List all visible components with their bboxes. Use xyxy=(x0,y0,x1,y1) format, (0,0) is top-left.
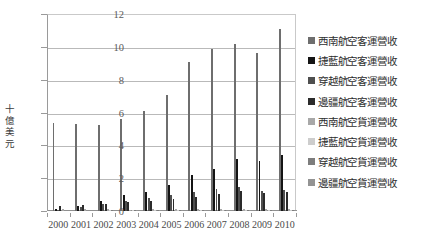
y-axis-tick-mark xyxy=(41,80,47,81)
bar-group xyxy=(279,15,297,211)
x-axis-tick-label: 2010 xyxy=(270,219,300,230)
x-axis: 2000200120022003200420052006200720082009… xyxy=(47,213,296,239)
x-axis-tick-mark xyxy=(160,213,161,217)
legend-label: 捷藍航空貨運營收 xyxy=(318,134,396,149)
legend-label: 邊疆航空客運營收 xyxy=(318,94,396,109)
legend-item[interactable]: 穿越航空貨運營收 xyxy=(308,152,424,172)
bar xyxy=(98,125,100,211)
bar xyxy=(84,209,86,211)
bar xyxy=(249,210,251,211)
bar xyxy=(62,209,64,211)
y-axis-title-char: 十 xyxy=(2,104,18,116)
y-axis-tick-mark xyxy=(41,113,47,114)
legend-swatch-icon xyxy=(308,57,315,64)
x-axis-tick-mark xyxy=(92,213,93,217)
bar-group xyxy=(188,15,206,211)
bar xyxy=(272,210,274,211)
x-axis-tick-mark xyxy=(273,213,274,217)
y-axis-tick-mark xyxy=(41,14,47,15)
bar-group xyxy=(75,15,93,211)
y-axis-title-char: 美 xyxy=(2,127,18,139)
legend-item[interactable]: 捷藍航空客運營收 xyxy=(308,50,424,70)
plot-inner xyxy=(48,15,295,211)
bar-group xyxy=(234,15,252,211)
chart-legend: 西南航空客運營收捷藍航空客運營收穿越航空客運營收邊疆航空客運營收西南航空貨運營收… xyxy=(308,30,424,192)
x-axis-tick-mark xyxy=(183,213,184,217)
legend-item[interactable]: 邊疆航空貨運營收 xyxy=(308,172,424,192)
bar xyxy=(182,210,184,211)
y-axis-tick-mark xyxy=(41,47,47,48)
x-axis-tick-mark xyxy=(138,213,139,217)
x-axis-tick-mark xyxy=(296,213,297,217)
legend-swatch-icon xyxy=(308,138,315,145)
legend-swatch-icon xyxy=(308,179,315,186)
bar xyxy=(53,123,55,211)
x-axis-tick-mark xyxy=(228,213,229,217)
bar-group xyxy=(256,15,274,211)
y-axis-tick-mark xyxy=(41,211,47,212)
legend-swatch-icon xyxy=(308,37,315,44)
bar xyxy=(295,210,297,211)
legend-item[interactable]: 西南航空貨運營收 xyxy=(308,111,424,131)
x-axis-tick-mark xyxy=(205,213,206,217)
legend-label: 西南航空貨運營收 xyxy=(318,114,396,129)
bar xyxy=(204,210,206,211)
legend-label: 邊疆航空貨運營收 xyxy=(318,175,396,190)
bar xyxy=(159,210,161,211)
y-axis-title-char: 億 xyxy=(2,116,18,128)
bar-group xyxy=(53,15,71,211)
bar xyxy=(227,210,229,211)
legend-label: 穿越航空貨運營收 xyxy=(318,154,396,169)
y-axis-tick-label: 8 xyxy=(102,74,124,85)
legend-item[interactable]: 捷藍航空貨運營收 xyxy=(308,131,424,151)
legend-label: 捷藍航空客運營收 xyxy=(318,53,396,68)
plot-area xyxy=(47,14,296,211)
bar-group xyxy=(166,15,184,211)
y-axis-tick-mark xyxy=(41,178,47,179)
y-axis-tick-label: 2 xyxy=(102,173,124,184)
bar-group xyxy=(143,15,161,211)
y-axis-tick-label: 10 xyxy=(102,41,124,52)
legend-swatch-icon xyxy=(308,77,315,84)
bar xyxy=(136,210,138,211)
bar xyxy=(75,124,77,211)
x-axis-tick-mark xyxy=(47,213,48,217)
legend-item[interactable]: 穿越航空客運營收 xyxy=(308,71,424,91)
x-axis-tick-mark xyxy=(115,213,116,217)
legend-swatch-icon xyxy=(308,98,315,105)
legend-item[interactable]: 邊疆航空客運營收 xyxy=(308,91,424,111)
bar-group xyxy=(211,15,229,211)
x-axis-tick-mark xyxy=(251,213,252,217)
y-axis-tick-label: 12 xyxy=(102,9,124,20)
legend-label: 西南航空客運營收 xyxy=(318,33,396,48)
y-axis-tick-label: 4 xyxy=(102,140,124,151)
y-axis-tick-mark xyxy=(41,145,47,146)
y-axis-title: 十億美元 xyxy=(2,104,18,150)
legend-swatch-icon xyxy=(308,118,315,125)
legend-label: 穿越航空客運營收 xyxy=(318,73,396,88)
y-axis-tick-label: 6 xyxy=(102,107,124,118)
legend-item[interactable]: 西南航空客運營收 xyxy=(308,30,424,50)
y-axis-title-char: 元 xyxy=(2,139,18,151)
chart-container: 十億美元 024681012 2000200120022003200420052… xyxy=(0,0,426,241)
x-axis-tick-mark xyxy=(70,213,71,217)
legend-swatch-icon xyxy=(308,158,315,165)
